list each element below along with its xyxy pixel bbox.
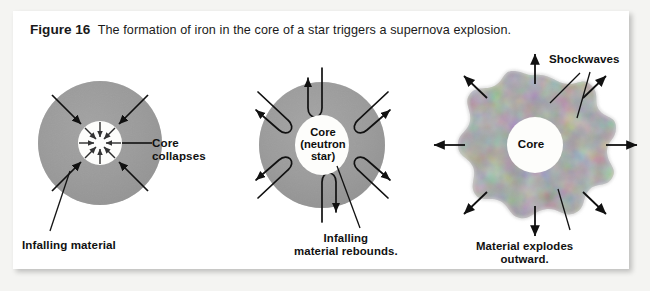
label-infalling-rebounds: Infalling material rebounds. — [294, 232, 398, 258]
label-infalling-material: Infalling material — [22, 238, 116, 251]
label-material-explodes: Material explodes outward. — [476, 240, 573, 266]
figure-caption-text: The formation of iron in the core of a s… — [98, 23, 512, 37]
core-label-neutron-star: Core (neutron star) — [292, 126, 354, 162]
label-infalling-rebounds-line2: material rebounds. — [294, 245, 398, 258]
panel-explosion — [432, 58, 637, 253]
core-label-neutron-line1: Core — [292, 126, 354, 138]
figure-root: Figure 16 The formation of iron in the c… — [0, 0, 650, 291]
figure-number: Figure 16 — [30, 22, 90, 37]
core-label-neutron-line3: star) — [292, 150, 354, 162]
figure-caption: Figure 16 The formation of iron in the c… — [30, 22, 511, 37]
label-infalling-rebounds-line1: Infalling — [294, 232, 398, 245]
label-material-explodes-line1: Material explodes — [476, 240, 573, 253]
label-shockwaves: Shockwaves — [549, 52, 620, 65]
label-core-collapses: Core collapses — [152, 136, 206, 162]
core-label-neutron-line2: (neutron — [292, 138, 354, 150]
label-core-collapses-line1: Core — [152, 136, 206, 149]
explosion-diagram — [432, 58, 637, 253]
core-label-explosion: Core — [502, 138, 560, 151]
label-material-explodes-line2: outward. — [476, 253, 573, 266]
label-core-collapses-line2: collapses — [152, 149, 206, 162]
